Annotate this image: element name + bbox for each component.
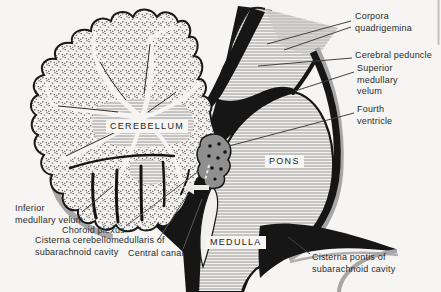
label-line: Corpora [355, 11, 412, 23]
label-central-canal: Central canal [128, 248, 184, 260]
label-line: quadrigemina [355, 23, 412, 35]
structure-label-pons: PONS [265, 155, 304, 168]
label-superior-medullary-velum: Superior medullary velum [357, 63, 398, 98]
label-cisterna-pontis: Cisterna pontis of subarachnoid cavity [312, 252, 395, 275]
label-line: Fourth [357, 104, 392, 116]
label-line: ventricle [357, 116, 392, 128]
structure-label-medulla: MEDULLA [206, 236, 266, 249]
label-line: Cisterna pontis of [312, 252, 395, 264]
label-cerebral-peduncle: Cerebral peduncle [355, 50, 432, 62]
label-line: Central canal [128, 248, 184, 260]
label-line: medullary [357, 75, 398, 87]
label-line: Superior [357, 63, 398, 75]
anatomy-diagram: CEREBELLUM PONS MEDULLA Corpora quadrige… [0, 0, 441, 292]
label-fourth-ventricle: Fourth ventricle [357, 104, 392, 127]
label-inferior-medullary-velum: Inferior medullary velum [15, 203, 84, 226]
label-line: Inferior [15, 203, 84, 215]
label-line: subarachnoid cavity [312, 264, 395, 276]
structure-label-cerebellum: CEREBELLUM [106, 120, 188, 133]
scan-streak [438, 0, 440, 45]
label-line: Cerebral peduncle [355, 50, 432, 62]
label-line: velum [357, 86, 398, 98]
label-corpora-quadrigemina: Corpora quadrigemina [355, 11, 412, 34]
label-line: Cisterna cerebellomedullaris of [35, 235, 165, 247]
